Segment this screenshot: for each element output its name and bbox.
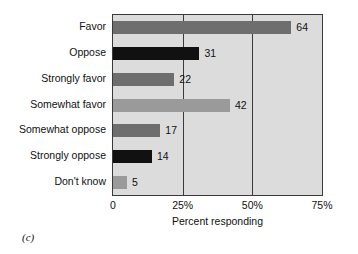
bar-value-label: 64 bbox=[296, 20, 308, 34]
bar-value-label: 14 bbox=[157, 149, 169, 163]
bar bbox=[113, 124, 160, 137]
bar-value-label: 42 bbox=[235, 98, 247, 112]
bar bbox=[113, 47, 199, 60]
category-label: Somewhat oppose bbox=[0, 123, 106, 136]
category-label: Don't know bbox=[0, 175, 106, 188]
bar bbox=[113, 73, 174, 86]
bar-row: 64 bbox=[113, 21, 322, 34]
category-label: Strongly oppose bbox=[0, 149, 106, 162]
bar-value-label: 17 bbox=[165, 123, 177, 137]
bar bbox=[113, 176, 127, 189]
x-axis-title: Percent responding bbox=[112, 215, 323, 227]
bar-row: 5 bbox=[113, 176, 322, 189]
x-tick-label: 0 bbox=[110, 199, 116, 211]
x-tick-label: 50% bbox=[242, 199, 263, 211]
category-label: Oppose bbox=[0, 46, 106, 59]
bar bbox=[113, 21, 291, 34]
bar bbox=[113, 99, 230, 112]
bar-row: 14 bbox=[113, 150, 322, 163]
bar bbox=[113, 150, 152, 163]
plot-area: 6431224217145 bbox=[112, 14, 323, 196]
figure-panel: FavorOpposeStrongly favorSomewhat favorS… bbox=[0, 0, 358, 254]
bar-row: 31 bbox=[113, 47, 322, 60]
category-label: Favor bbox=[0, 20, 106, 33]
bar-value-label: 22 bbox=[179, 72, 191, 86]
category-label: Strongly favor bbox=[0, 72, 106, 85]
x-tick-label: 25% bbox=[172, 199, 193, 211]
x-axis-tick-labels: 025%50%75% bbox=[112, 199, 323, 213]
category-label: Somewhat favor bbox=[0, 98, 106, 111]
bar-row: 22 bbox=[113, 73, 322, 86]
category-axis-labels: FavorOpposeStrongly favorSomewhat favorS… bbox=[0, 14, 106, 196]
bar-value-label: 5 bbox=[132, 175, 138, 189]
bar-row: 17 bbox=[113, 124, 322, 137]
panel-caption: (c) bbox=[22, 231, 34, 243]
x-tick-label: 75% bbox=[311, 199, 332, 211]
bar-row: 42 bbox=[113, 99, 322, 112]
bar-value-label: 31 bbox=[204, 46, 216, 60]
bar-series: 6431224217145 bbox=[113, 15, 322, 195]
